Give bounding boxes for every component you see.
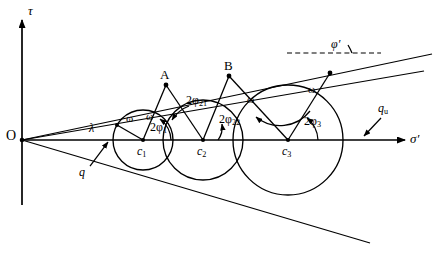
centre-label-c2: c2: [197, 145, 206, 159]
load-label-qu-sub: u: [384, 107, 388, 116]
load-label-q: q: [79, 166, 85, 180]
angle-label-2phi3-sub: 3: [317, 120, 321, 129]
point-label-B: B: [224, 59, 233, 72]
angle-arc-phi-prime: [348, 45, 352, 53]
lambda-label: λ: [89, 122, 94, 134]
mohr-circle-vector-graphic: [0, 0, 438, 255]
angle-label-2phi21-sub: 21: [199, 99, 207, 108]
load-label-q-base: q: [79, 165, 85, 179]
angle-label-2phi21-base: 2φ: [186, 93, 199, 107]
phi-prime-label: φ′: [331, 38, 340, 50]
centre-label-c1: c1: [137, 145, 146, 159]
angle-label-2phi22-base: 2φ: [219, 112, 232, 126]
sigma-axis-label: σ′: [410, 132, 419, 145]
centre-label-c3-sub: 3: [287, 150, 291, 159]
omega-label-2: ω: [146, 111, 153, 122]
angle-label-2phi1-sub: 1: [163, 126, 167, 135]
tangent-point-c1-upper: [115, 123, 119, 127]
diagram-canvas: τ σ′ O A B λ φ′ c1 c2 c3 2φ1 2φ21 2φ22 2…: [0, 0, 438, 255]
origin-label: O: [6, 129, 16, 143]
angle-label-2phi1: 2φ1: [150, 121, 167, 135]
tangent-point-B: [227, 74, 232, 79]
angle-label-2phi22-sub: 22: [232, 118, 240, 127]
tangent-point-A: [164, 83, 169, 88]
centre-label-c1-sub: 1: [142, 150, 146, 159]
centre-label-c2-sub: 2: [202, 150, 206, 159]
radius-c1-left: [117, 125, 143, 140]
angle-label-2phi1-base: 2φ: [150, 120, 163, 134]
tangent-point-c3-upper: [328, 71, 333, 76]
centre-label-c3: c3: [282, 145, 291, 159]
angle-label-2phi3-base: 2φ: [304, 114, 317, 128]
angle-label-2phi3: 2φ3: [304, 115, 321, 129]
angle-label-2phi22: 2φ22: [219, 113, 240, 127]
omega-label-3: ω: [247, 94, 254, 105]
tau-axis-label: τ: [28, 4, 33, 17]
angle-label-2phi21: 2φ21: [186, 94, 207, 108]
omega-label-1: ω: [126, 113, 133, 124]
point-label-A: A: [160, 68, 169, 81]
origin-dot: [20, 138, 25, 143]
leader-arrow-qu: [364, 118, 381, 136]
load-label-qu: qu: [378, 102, 388, 116]
omega-label-4: ω: [308, 84, 315, 95]
radius-line-group: [117, 73, 330, 140]
lower-envelope-line: [22, 140, 370, 243]
